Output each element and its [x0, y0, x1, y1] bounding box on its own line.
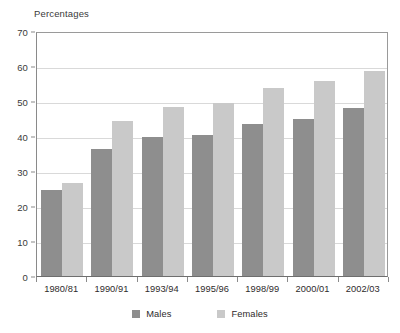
y-tick-mark-40	[31, 137, 35, 138]
y-tick-label-70: 70	[17, 27, 28, 38]
bar-males-1990-91	[91, 149, 112, 276]
bar-females-1995-96	[213, 103, 234, 276]
x-tick-label-1993-94: 1993/94	[145, 284, 179, 294]
x-tick-mark-5	[338, 277, 339, 282]
x-tick-label-1990-91: 1990/91	[94, 284, 128, 294]
y-tick-label-0: 0	[23, 272, 28, 283]
y-tick-label-50: 50	[17, 97, 28, 108]
bar-series-container	[37, 33, 387, 276]
bar-chart: Percentages 010203040506070 1980/811990/…	[0, 0, 400, 333]
y-axis-ticks: 010203040506070	[0, 32, 32, 277]
legend-swatch-males-icon	[132, 310, 140, 318]
y-tick-mark-60	[31, 67, 35, 68]
x-tick-mark-4	[287, 277, 288, 282]
bar-males-2000-01	[293, 119, 314, 277]
y-tick-label-40: 40	[17, 132, 28, 143]
y-tick-mark-70	[31, 32, 35, 33]
plot-area	[36, 32, 388, 277]
y-tick-label-60: 60	[17, 62, 28, 73]
legend-item-females[interactable]: Females	[217, 309, 267, 319]
cropped-caption-strip	[0, 0, 400, 2]
legend-label-males: Males	[146, 309, 171, 319]
y-tick-mark-30	[31, 172, 35, 173]
chart-legend: Males Females	[0, 309, 400, 319]
x-axis: 1980/811990/911993/941995/961998/992000/…	[36, 277, 388, 303]
bar-males-1980-81	[41, 190, 62, 276]
bar-females-2000-01	[314, 81, 335, 276]
y-axis-label: Percentages	[34, 8, 89, 19]
y-tick-mark-20	[31, 207, 35, 208]
x-tick-mark-1	[137, 277, 138, 282]
y-tick-label-20: 20	[17, 202, 28, 213]
bar-females-1980-81	[62, 183, 83, 276]
legend-label-females: Females	[231, 309, 267, 319]
y-tick-mark-10	[31, 242, 35, 243]
bar-females-2002-03	[364, 71, 385, 276]
y-tick-label-10: 10	[17, 237, 28, 248]
legend-swatch-females-icon	[217, 310, 225, 318]
y-tick-label-30: 30	[17, 167, 28, 178]
bar-females-1990-91	[112, 121, 133, 276]
bar-females-1998-99	[263, 88, 284, 276]
x-tick-label-1980-81: 1980/81	[44, 284, 78, 294]
y-tick-mark-50	[31, 102, 35, 103]
y-tick-mark-0	[31, 277, 35, 278]
x-tick-mark-2	[187, 277, 188, 282]
x-tick-label-2000-01: 2000/01	[296, 284, 330, 294]
x-tick-label-1998-99: 1998/99	[245, 284, 279, 294]
x-tick-label-2002-03: 2002/03	[346, 284, 380, 294]
bar-females-1993-94	[163, 107, 184, 276]
x-tick-mark-0	[86, 277, 87, 282]
x-tick-label-1995-96: 1995/96	[195, 284, 229, 294]
bar-males-1993-94	[142, 137, 163, 276]
legend-item-males[interactable]: Males	[132, 309, 171, 319]
bar-males-1995-96	[192, 135, 213, 276]
x-tick-mark-6	[388, 277, 389, 282]
x-tick-mark-origin	[36, 277, 37, 282]
bar-males-1998-99	[242, 124, 263, 276]
x-tick-mark-3	[237, 277, 238, 282]
bar-males-2002-03	[343, 108, 364, 276]
